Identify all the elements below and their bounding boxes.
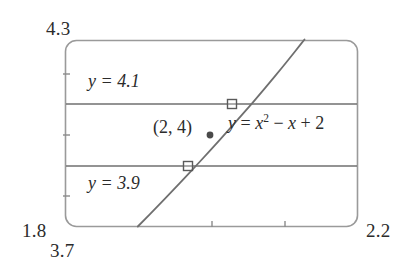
x-min-label: 1.8 [22, 220, 46, 242]
x-max-label: 2.2 [366, 220, 390, 242]
lower-bound-label: y = 3.9 [88, 173, 140, 194]
curve-eq-minus: − [269, 113, 288, 133]
y-max-label: 4.3 [46, 18, 70, 40]
curve-eq-equals: = [236, 113, 255, 133]
point-marker [207, 132, 214, 139]
point-label: (2, 4) [153, 117, 192, 138]
curve-eq-term3: x [288, 113, 296, 133]
lower-bound-label-text: y = 3.9 [88, 173, 140, 193]
y-min-label: 3.7 [50, 240, 74, 262]
upper-intersection-marker [228, 100, 237, 109]
curve-eq-term1-base: x [255, 113, 263, 133]
graph-figure: 4.3 1.8 3.7 2.2 y = 4.1 y = 3.9 (2, 4) y… [0, 0, 410, 270]
upper-bound-label: y = 4.1 [88, 71, 140, 92]
upper-bound-label-text: y = 4.1 [88, 71, 140, 91]
curve-eq-lhs: y [228, 113, 236, 133]
curve-eq-term4: + 2 [296, 113, 324, 133]
graph-canvas [0, 0, 410, 270]
curve-equation-label: y = x2 − x + 2 [228, 113, 324, 134]
lower-intersection-marker [184, 162, 193, 171]
